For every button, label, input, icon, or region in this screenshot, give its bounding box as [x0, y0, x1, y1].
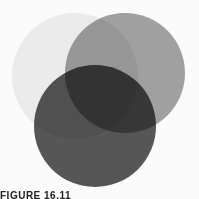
dark-circle: [34, 65, 156, 187]
overlapping-circles-diagram: [0, 0, 199, 199]
figure-caption: FIGURE 16.11: [0, 191, 71, 199]
